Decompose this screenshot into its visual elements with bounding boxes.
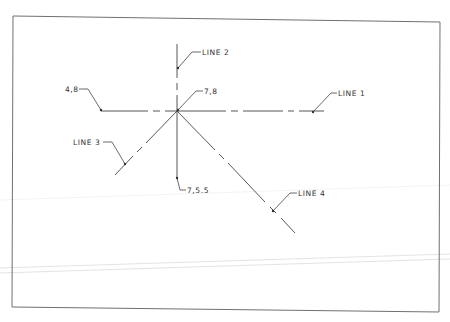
scan-artifact-lines xyxy=(0,185,450,273)
label-point-7-5-5: 7,5.5 xyxy=(187,186,209,195)
label-line-4: LINE 4 xyxy=(298,189,326,198)
line-4[interactable] xyxy=(177,111,295,233)
label-point-4-8: 4,8 xyxy=(65,85,79,94)
label-point-7-8: 7,8 xyxy=(204,87,218,96)
line-3[interactable] xyxy=(115,111,177,175)
drawing-canvas: 4,8 7,8 LINE 2 LINE 1 LINE 3 7,5.5 LINE … xyxy=(0,0,450,322)
label-line-3: LINE 3 xyxy=(73,138,101,147)
label-line-1: LINE 1 xyxy=(338,89,366,98)
label-line-2: LINE 2 xyxy=(202,48,230,57)
drawing-frame xyxy=(12,16,440,312)
